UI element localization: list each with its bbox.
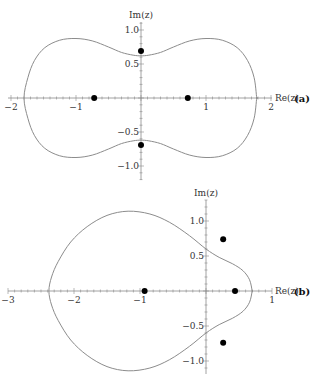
panel-b-plot: −3−2−111.00.5−0.5−1.0Im(z)Re(z)(b) <box>1 188 310 374</box>
x-tick-label: 1 <box>269 295 275 305</box>
y-tick-label: −1.0 <box>117 161 139 171</box>
panel-label: (a) <box>294 93 310 104</box>
x-tick-label: −3 <box>1 295 15 305</box>
x-tick-label: −2 <box>4 102 17 112</box>
zero-point <box>185 95 191 101</box>
y-tick-label: −0.5 <box>117 127 139 137</box>
y-tick-label: −0.5 <box>182 321 204 331</box>
y-tick-label: 0.5 <box>190 251 205 261</box>
zero-point <box>138 142 144 148</box>
zero-point <box>142 288 148 294</box>
zero-point <box>138 48 144 54</box>
y-axis-label: Im(z) <box>129 10 153 20</box>
x-tick-label: −2 <box>67 295 80 305</box>
zero-point <box>91 95 97 101</box>
y-tick-label: 1.0 <box>190 216 205 226</box>
panel-a-plot: −2−1121.00.5−0.5−1.0Im(z)Re(z)(a) <box>4 10 310 180</box>
x-tick-label: 2 <box>268 102 274 112</box>
x-tick-label: −1 <box>133 295 146 305</box>
panel-label: (b) <box>294 286 310 297</box>
y-tick-label: 0.5 <box>125 59 140 69</box>
x-tick-label: 1 <box>203 102 209 112</box>
y-tick-label: 1.0 <box>125 25 140 35</box>
zero-point <box>232 288 238 294</box>
zero-point <box>220 340 226 346</box>
figure: −2−1121.00.5−0.5−1.0Im(z)Re(z)(a) −3−2−1… <box>0 0 322 377</box>
y-axis-label: Im(z) <box>194 188 218 198</box>
y-tick-label: −1.0 <box>182 356 204 366</box>
x-tick-label: −1 <box>69 102 82 112</box>
zero-point <box>220 236 226 242</box>
